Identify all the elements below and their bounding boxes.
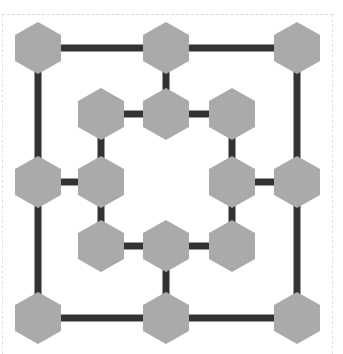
board-point-o-tr[interactable]	[274, 22, 320, 74]
board-point-i-bm[interactable]	[143, 220, 189, 272]
game-board	[0, 0, 343, 354]
board-point-o-br[interactable]	[274, 292, 320, 344]
board-points	[15, 22, 320, 344]
board-point-o-tl[interactable]	[15, 22, 61, 74]
board-point-i-mr[interactable]	[209, 156, 255, 208]
board-point-o-tm[interactable]	[143, 22, 189, 74]
board-point-o-mr[interactable]	[274, 156, 320, 208]
board-point-i-tm[interactable]	[143, 88, 189, 140]
board-point-i-bl[interactable]	[78, 220, 124, 272]
board-point-i-br[interactable]	[209, 220, 255, 272]
board-lines	[38, 48, 297, 318]
board-point-i-tr[interactable]	[209, 88, 255, 140]
board-point-o-bl[interactable]	[15, 292, 61, 344]
board-point-o-bm[interactable]	[143, 292, 189, 344]
board-point-i-tl[interactable]	[78, 88, 124, 140]
board-point-i-ml[interactable]	[78, 156, 124, 208]
board-point-o-ml[interactable]	[15, 156, 61, 208]
